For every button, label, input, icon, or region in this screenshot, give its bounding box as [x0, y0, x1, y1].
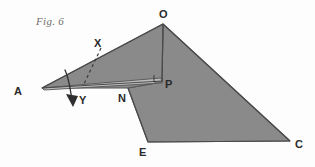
vertex-label-E: E — [139, 147, 146, 158]
vertex-label-N: N — [118, 93, 126, 104]
rotation-arrow-Y-head — [66, 94, 78, 107]
vertex-label-O: O — [159, 9, 168, 20]
vertex-label-A: A — [14, 86, 22, 97]
vertex-label-P: P — [165, 79, 172, 90]
vertex-label-Y: Y — [79, 95, 86, 106]
vertex-label-X: X — [94, 38, 101, 49]
figure-container: Fig. 6 A O X Y N P E C — [0, 0, 315, 167]
figure-caption: Fig. 6 — [36, 16, 64, 27]
vertex-label-C: C — [295, 139, 303, 150]
